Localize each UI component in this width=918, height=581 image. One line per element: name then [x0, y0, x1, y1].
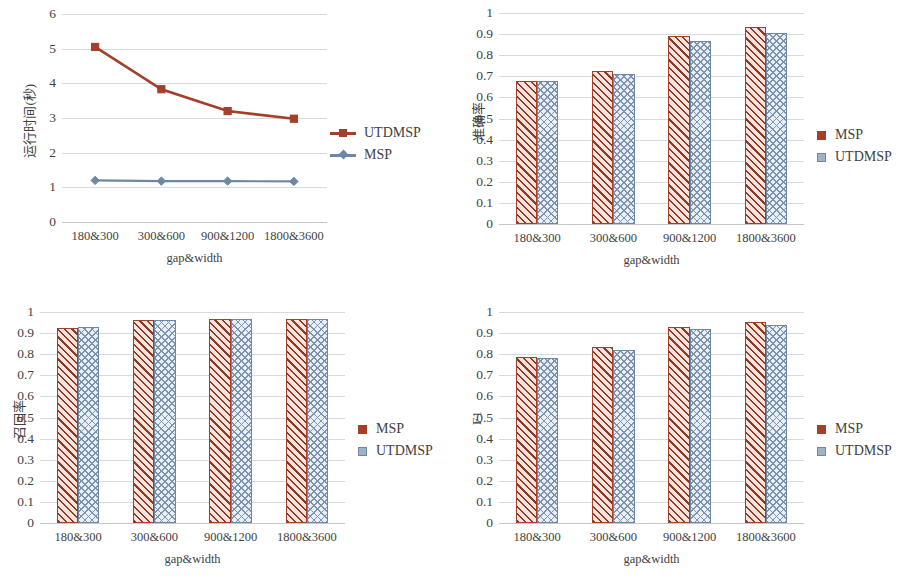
marker-msp	[157, 177, 165, 185]
bar-msp	[668, 327, 689, 523]
bar-utdmsp	[78, 327, 99, 523]
y-axis-tick-label: 1	[453, 305, 493, 319]
marker-utdmsp	[158, 86, 165, 93]
bar-msp	[592, 347, 613, 523]
bar-msp	[516, 81, 537, 224]
bar-msp	[745, 322, 766, 523]
legend-item-msp[interactable]: MSP	[330, 144, 421, 166]
legend-label: MSP	[833, 421, 863, 437]
chart-panel-f1: F1 00.10.20.30.40.50.60.70.80.91 180&300…	[459, 290, 918, 581]
y-axis-tick-label: 0.1	[453, 196, 493, 210]
legend-swatch-icon	[817, 131, 826, 140]
legend-item-utdmsp[interactable]: UTDMSP	[330, 122, 421, 144]
chart-panel-recall: 召回率 00.10.20.30.40.50.60.70.80.91 180&30…	[0, 290, 459, 581]
gridline	[40, 523, 345, 524]
legend-label: UTDMSP	[833, 149, 892, 165]
y-axis-tick-label: 0.8	[453, 347, 493, 361]
legend-label: UTDMSP	[362, 125, 421, 141]
legend-item-msp[interactable]: MSP	[355, 418, 433, 440]
y-axis-tick-label: 0.3	[453, 154, 493, 168]
gridline	[499, 13, 804, 14]
gridline	[40, 312, 345, 313]
y-axis-tick-label: 0.1	[453, 495, 493, 509]
y-axis-tick-label: 0.3	[0, 453, 34, 467]
y-axis-tick-label: 0.1	[0, 495, 34, 509]
y-axis-tick-label: 0.7	[453, 369, 493, 383]
y-axis-tick-label: 0.6	[453, 390, 493, 404]
bar-msp	[57, 328, 78, 523]
line-utdmsp	[95, 47, 294, 119]
bar-msp	[209, 319, 230, 523]
y-axis-tick-label: 0.8	[453, 48, 493, 62]
x-axis-tick-label: 1800&3600	[721, 530, 811, 545]
legend-item-utdmsp[interactable]: UTDMSP	[814, 440, 892, 462]
y-axis-tick-label: 0.6	[0, 390, 34, 404]
legend-line-swatch-icon	[330, 154, 356, 157]
y-axis-tick-label: 0.4	[0, 432, 34, 446]
bar-msp	[592, 71, 613, 224]
x-axis-tick-label: 1800&3600	[249, 229, 339, 244]
legend-item-msp[interactable]: MSP	[814, 418, 892, 440]
bar-utdmsp	[690, 329, 711, 523]
legend-swatch-icon	[358, 425, 367, 434]
bar-msp	[516, 357, 537, 523]
marker-utdmsp	[224, 107, 231, 114]
y-axis-tick-label: 0.7	[453, 70, 493, 84]
gridline	[499, 224, 804, 225]
y-axis-tick-label: 0.4	[453, 133, 493, 147]
x-axis-tick-label: 1800&3600	[262, 530, 352, 545]
y-axis-tick-label: 0.5	[0, 411, 34, 425]
y-axis-tick-label: 0	[453, 516, 493, 530]
bar-utdmsp	[537, 81, 558, 224]
bar-utdmsp	[766, 33, 787, 224]
gridline	[499, 312, 804, 313]
y-axis-tick-label: 0	[453, 217, 493, 231]
x-axis-title-runtime: gap&width	[125, 251, 265, 266]
chart-panel-precision: 准确率 00.10.20.30.40.50.60.70.80.91 180&30…	[459, 0, 918, 290]
legend-swatch-icon	[358, 447, 367, 456]
y-axis-tick-label: 0.6	[453, 91, 493, 105]
legend-swatch-icon	[817, 425, 826, 434]
bar-utdmsp	[766, 325, 787, 523]
legend-label: MSP	[362, 147, 392, 163]
marker-msp	[223, 177, 231, 185]
bar-utdmsp	[690, 41, 711, 224]
marker-utdmsp	[92, 43, 99, 50]
bar-utdmsp	[613, 74, 634, 224]
y-axis-tick-label: 0.2	[453, 474, 493, 488]
line-msp	[95, 180, 294, 181]
y-axis-tick-label: 0.9	[0, 326, 34, 340]
legend-item-utdmsp[interactable]: UTDMSP	[355, 440, 433, 462]
figure-grid: 运行时间(秒) 0123456 180&300300&600900&120018…	[0, 0, 918, 581]
x-axis-title-recall: gap&width	[123, 552, 263, 567]
legend-marker-icon	[339, 129, 347, 137]
y-axis-tick-label: 0.4	[453, 432, 493, 446]
y-axis-tick-label: 0.5	[453, 411, 493, 425]
legend-item-msp[interactable]: MSP	[814, 124, 892, 146]
y-axis-tick-label: 0.7	[0, 369, 34, 383]
bar-msp	[668, 36, 689, 224]
bar-msp	[133, 320, 154, 523]
legend-marker-icon	[338, 150, 348, 160]
y-axis-tick-label: 1	[0, 305, 34, 319]
legend-label: MSP	[833, 127, 863, 143]
legend-label: UTDMSP	[374, 443, 433, 459]
gridline	[499, 523, 804, 524]
y-axis-tick-label: 0.5	[453, 112, 493, 126]
legend-runtime: UTDMSPMSP	[330, 122, 421, 166]
legend-line-swatch-icon	[330, 132, 356, 135]
y-axis-tick-label: 0.9	[453, 27, 493, 41]
legend-precision: MSPUTDMSP	[814, 124, 892, 168]
legend-label: UTDMSP	[833, 443, 892, 459]
x-axis-title-f1: gap&width	[582, 552, 722, 567]
bar-utdmsp	[154, 320, 175, 523]
bar-msp	[745, 27, 766, 224]
bar-utdmsp	[537, 358, 558, 523]
chart-panel-runtime: 运行时间(秒) 0123456 180&300300&600900&120018…	[0, 0, 459, 290]
y-axis-tick-label: 0.3	[453, 453, 493, 467]
legend-swatch-icon	[817, 447, 826, 456]
marker-msp	[91, 176, 99, 184]
legend-item-utdmsp[interactable]: UTDMSP	[814, 146, 892, 168]
legend-f1: MSPUTDMSP	[814, 418, 892, 462]
bar-utdmsp	[613, 350, 634, 523]
